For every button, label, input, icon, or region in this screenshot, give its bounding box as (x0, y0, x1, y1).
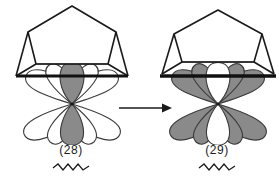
structure-28-drawing (6, 0, 136, 145)
figure-canvas: (28) (0, 0, 279, 176)
squiggle-icon (197, 162, 237, 172)
structure-28-label: (28) (6, 143, 136, 157)
structure-29-label: (29) (152, 143, 279, 157)
structure-29-underline (152, 158, 279, 176)
orbital-node-point (70, 102, 73, 105)
orbital-node-point (216, 102, 219, 105)
structure-28-underline (6, 158, 136, 176)
cage-top-pentagon (174, 10, 262, 62)
squiggle-icon (51, 162, 91, 172)
structure-29-drawing (152, 0, 279, 145)
cage-top-pentagon (28, 6, 116, 64)
